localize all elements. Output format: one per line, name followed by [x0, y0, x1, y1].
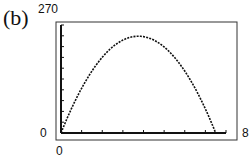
chart-plot	[0, 0, 249, 167]
curve-series	[61, 36, 216, 133]
plot-frame	[56, 22, 237, 140]
axes	[61, 25, 226, 133]
ticks	[61, 25, 226, 133]
